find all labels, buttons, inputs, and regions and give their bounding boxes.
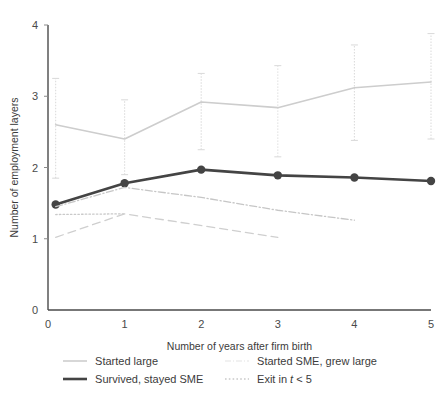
x-tick-label-3: 3 bbox=[275, 318, 281, 330]
x-tick-label-5: 5 bbox=[428, 318, 434, 330]
legend-key-line-solid-light bbox=[62, 355, 88, 367]
y-tick-label-3: 3 bbox=[32, 90, 38, 102]
x-tick-label-2: 2 bbox=[198, 318, 204, 330]
legend-key-line-dotted-light bbox=[224, 373, 250, 385]
x-tick-label-1: 1 bbox=[122, 318, 128, 330]
error-bar bbox=[52, 78, 59, 178]
chart-legend: Started large Started SME, grew large Su… bbox=[0, 352, 439, 388]
chart-figure: 01234012345Number of years after firm bi… bbox=[0, 0, 439, 407]
y-tick-label-0: 0 bbox=[32, 304, 38, 316]
data-point-marker bbox=[274, 171, 282, 179]
legend-label-survived-stayed-sme: Survived, stayed SME bbox=[95, 373, 203, 385]
legend-label-exit-in-t-lt-5: Exit in t < 5 bbox=[257, 373, 312, 385]
error-bar bbox=[198, 73, 205, 149]
series-line-1 bbox=[56, 170, 431, 205]
y-axis-title: Number of employment layers bbox=[8, 97, 20, 237]
data-point-marker bbox=[197, 165, 205, 173]
series-line-4 bbox=[56, 214, 278, 238]
data-point-marker bbox=[51, 200, 59, 208]
x-tick-label-0: 0 bbox=[45, 318, 51, 330]
error-bar bbox=[428, 34, 435, 139]
error-bar bbox=[351, 45, 358, 140]
legend-label-started-sme-grew-large: Started SME, grew large bbox=[257, 355, 377, 367]
legend-key-line-dashdot-light bbox=[224, 355, 250, 367]
axis-labels-layer: 01234012345Number of years after firm bi… bbox=[8, 19, 434, 352]
legend-item-started-sme-grew-large[interactable]: Started SME, grew large bbox=[224, 352, 377, 370]
legend-item-started-large[interactable]: Started large bbox=[62, 352, 214, 370]
legend-label-started-large: Started large bbox=[95, 355, 158, 367]
axes-layer bbox=[44, 25, 431, 310]
x-tick-label-4: 4 bbox=[351, 318, 357, 330]
data-point-marker bbox=[120, 179, 128, 187]
error-bar bbox=[274, 66, 281, 157]
legend-item-exit-in-t-lt-5[interactable]: Exit in t < 5 bbox=[224, 370, 377, 388]
y-tick-label-4: 4 bbox=[32, 19, 38, 31]
data-point-marker bbox=[350, 173, 358, 181]
series-line-2 bbox=[56, 187, 355, 220]
series-line-0 bbox=[56, 82, 431, 139]
series-layer bbox=[51, 82, 435, 237]
series-line-3 bbox=[56, 214, 125, 215]
x-axis-title: Number of years after firm birth bbox=[167, 340, 312, 352]
y-tick-label-2: 2 bbox=[32, 162, 38, 174]
data-point-marker bbox=[427, 177, 435, 185]
y-tick-label-1: 1 bbox=[32, 233, 38, 245]
legend-key-line-solid-dark bbox=[62, 373, 88, 385]
chart-plot-area: 01234012345Number of years after firm bi… bbox=[0, 0, 439, 407]
legend-item-survived-stayed-sme[interactable]: Survived, stayed SME bbox=[62, 370, 214, 388]
